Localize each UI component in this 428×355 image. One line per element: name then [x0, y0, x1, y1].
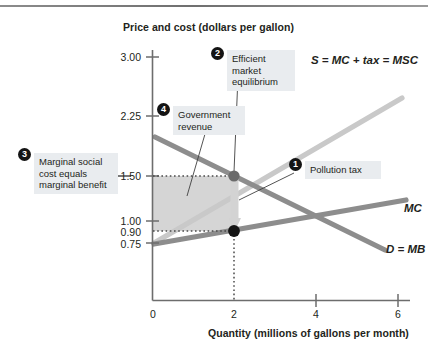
- y-tick-label-0-90: 0.90: [101, 226, 141, 238]
- y-axis-title: Price and cost (dollars per gallon): [123, 21, 294, 33]
- x-tick-label-4: 4: [306, 308, 326, 320]
- x-axis-title: Quantity (millions of gallons per month): [208, 327, 409, 339]
- supply-curve-label: S = MC + tax = MSC: [311, 54, 418, 66]
- demand-curve-label: D = MB: [386, 243, 425, 255]
- y-tick-label-2-25: 2.25: [101, 110, 141, 122]
- callout-marginal-social-cost: Marginal social cost equals marginal ben…: [34, 153, 118, 194]
- x-tick-label-2: 2: [224, 308, 244, 320]
- x-tick-label-0: 0: [143, 308, 163, 320]
- callout-efficient-market-equilibrium: Efficient market equilibrium: [227, 50, 295, 91]
- mc-curve-label: MC: [404, 202, 422, 214]
- x-tick-label-6: 6: [388, 308, 408, 320]
- y-tick-label-0-75: 0.75: [101, 238, 141, 250]
- callout-pollution-tax: Pollution tax: [305, 161, 381, 179]
- callout-badge-4: 4: [157, 103, 170, 116]
- efficient-equilibrium-point-marker: [228, 170, 239, 181]
- y-tick-label-3-00: 3.00: [101, 51, 141, 63]
- callout-badge-1: 1: [289, 158, 302, 171]
- callout-badge-2: 2: [211, 47, 224, 60]
- figure-container: Price and cost (dollars per gallon) Quan…: [0, 0, 428, 355]
- callout-badge-3: 3: [18, 148, 31, 161]
- marginal-cost-point-marker: [228, 225, 240, 237]
- callout-government-revenue: Government revenue: [173, 106, 245, 135]
